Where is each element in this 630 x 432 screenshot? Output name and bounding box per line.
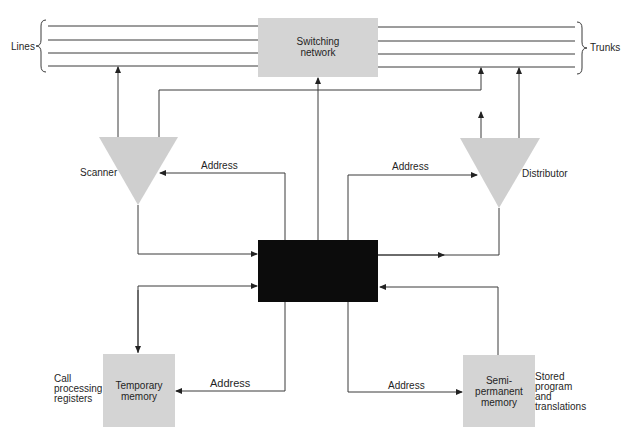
temporary-memory-label-2: memory	[103, 391, 175, 402]
lines-brace	[36, 20, 46, 72]
semipermanent-memory-block: Semi- permanent memory	[463, 355, 535, 427]
central-control-block	[258, 240, 378, 302]
temporary-memory-label-1: Temporary	[103, 380, 175, 391]
trunks-brace	[577, 22, 587, 74]
lines-label: Lines	[11, 41, 35, 52]
address-semi-label: Address	[388, 380, 425, 391]
semipermanent-memory-label-2: permanent	[463, 386, 535, 397]
temporary-memory-block: Temporary memory	[103, 354, 175, 427]
call-processing-label: Call processing registers	[54, 374, 102, 404]
switching-network-label-1: Switching	[258, 36, 378, 47]
switching-network-label-2: network	[258, 47, 378, 58]
stored-program-label: Stored program and translations	[535, 372, 586, 412]
scanner-label: Scanner	[80, 167, 117, 178]
address-distributor-label: Address	[392, 161, 429, 172]
call-processing-line-3: registers	[54, 394, 102, 404]
trunk-lines	[378, 27, 575, 67]
address-temp-label: Address	[210, 378, 250, 389]
address-scanner-label: Address	[201, 160, 238, 171]
semipermanent-memory-label-1: Semi-	[463, 375, 535, 386]
switching-network-block: Switching network	[258, 18, 378, 77]
semipermanent-memory-label-3: memory	[463, 397, 535, 408]
subscriber-lines	[48, 26, 258, 66]
stored-program-line-4: translations	[535, 402, 586, 412]
trunks-label: Trunks	[590, 42, 620, 53]
distributor-label: Distributor	[522, 168, 568, 179]
